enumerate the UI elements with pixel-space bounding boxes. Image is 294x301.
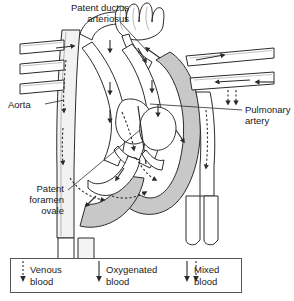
label-pulmonary-artery: Pulmonary artery	[245, 104, 294, 126]
label-patent-foramen-ovale: Patent foramen ovale	[8, 183, 64, 216]
solid-and-dotted-arrow-icon	[183, 259, 201, 285]
label-patent-ductus-arteriosus: Patent ductus arteriosus	[47, 2, 129, 24]
arch-branch-2	[20, 60, 64, 74]
arch-branch-1	[20, 40, 64, 54]
legend-item-venous-blood: Venous blood	[19, 259, 62, 292]
arrow-ductus-up	[146, 48, 160, 58]
legend-label-oxygenated-blood: Oxygenated blood	[106, 264, 157, 287]
arrow-pa-branch	[176, 130, 184, 142]
diagram-canvas: Patent ductus arteriosus Aorta Pulmonary…	[0, 0, 294, 301]
solid-arrow-icon	[95, 259, 103, 285]
dotted-arrow-icon	[19, 259, 27, 285]
legend-label-venous-blood: Venous blood	[30, 264, 62, 287]
legend-item-oxygenated-blood: Oxygenated blood	[95, 259, 157, 292]
right-descending-vessel	[186, 196, 200, 245]
legend-item-mixed-blood: Mixed blood	[183, 259, 219, 292]
vessel-shapes	[20, 3, 274, 286]
right-descending-vessel-2	[204, 196, 218, 245]
legend-box: Venous blood Oxygenated blood Mixed	[10, 258, 242, 293]
heart-illustration	[0, 0, 294, 301]
label-aorta: Aorta	[8, 99, 31, 110]
